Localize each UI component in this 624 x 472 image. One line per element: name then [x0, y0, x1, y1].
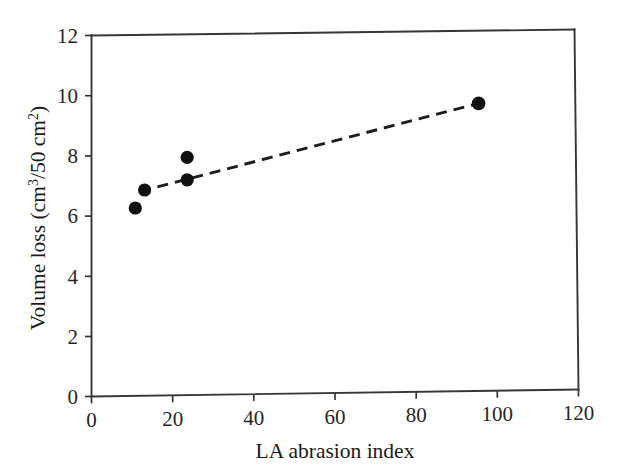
x-tick-label-0: 0 — [86, 408, 97, 432]
y-axis-title-lead: Volume loss (cm — [26, 186, 50, 330]
y-tick-label-10: 10 — [57, 84, 78, 108]
y-tick-label-6: 6 — [68, 204, 79, 228]
x-tick-labels: 0 20 40 60 80 100 120 — [86, 401, 594, 432]
data-point-3 — [181, 151, 194, 164]
axis-spine-right — [575, 30, 579, 390]
y-tick-label-0: 0 — [68, 385, 79, 409]
data-point-2 — [138, 183, 151, 196]
scatter-plot: 12 10 8 6 4 2 0 0 20 40 60 80 100 120 — [0, 0, 624, 472]
x-axis-title: LA abrasion index — [256, 439, 415, 463]
x-tick-label-120: 120 — [563, 401, 595, 425]
data-points — [129, 97, 486, 215]
x-tick-label-80: 80 — [406, 403, 427, 427]
x-tick-label-100: 100 — [482, 402, 514, 426]
y-axis-ticks — [85, 36, 92, 397]
y-axis-title-mid: /50 cm — [26, 120, 50, 179]
plot-frame — [92, 30, 579, 397]
axis-spine-top — [92, 30, 575, 36]
chart-figure: 12 10 8 6 4 2 0 0 20 40 60 80 100 120 — [0, 0, 624, 472]
data-point-5 — [472, 97, 486, 111]
data-point-4 — [181, 173, 194, 186]
y-tick-labels: 12 10 8 6 4 2 0 — [57, 24, 79, 409]
y-tick-label-12: 12 — [57, 24, 78, 48]
data-point-1 — [129, 201, 142, 214]
y-tick-label-2: 2 — [68, 325, 79, 349]
x-tick-label-60: 60 — [325, 405, 346, 429]
y-axis-title: Volume loss (cm3/50 cm2) — [26, 106, 50, 330]
y-axis-title-sup-3: 3 — [26, 179, 41, 186]
y-tick-label-8: 8 — [68, 144, 79, 168]
x-tick-label-20: 20 — [162, 407, 183, 431]
y-axis-title-sup-2: 2 — [26, 113, 41, 120]
x-tick-label-40: 40 — [243, 406, 264, 430]
y-axis-title-tail: ) — [26, 106, 50, 113]
y-tick-label-4: 4 — [68, 265, 79, 289]
